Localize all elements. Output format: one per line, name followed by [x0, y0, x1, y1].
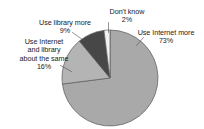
pie-label-use-internet-more: Use Internet more 73% — [128, 29, 204, 46]
pie-label-use-library-more: Use library more 9% — [28, 19, 102, 36]
pie-label-dont-know: Don't know 2% — [96, 8, 158, 25]
pie-chart-figure: Don't know 2% Use library more 9% Use In… — [0, 0, 204, 129]
pie-label-about-the-same: Use Internet and library about the same … — [6, 38, 82, 72]
